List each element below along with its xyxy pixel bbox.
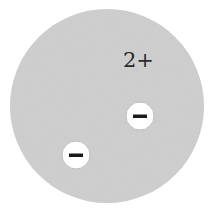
minus-sign-icon [133, 115, 147, 119]
minus-sign-icon [69, 154, 83, 158]
electron-1 [126, 102, 154, 130]
charge-label: 2+ [123, 50, 154, 71]
ion-diagram: 2+ [0, 0, 220, 215]
electron-2 [62, 141, 90, 169]
positive-ion-circle [10, 9, 204, 203]
ion-diagram-svg [0, 0, 220, 215]
